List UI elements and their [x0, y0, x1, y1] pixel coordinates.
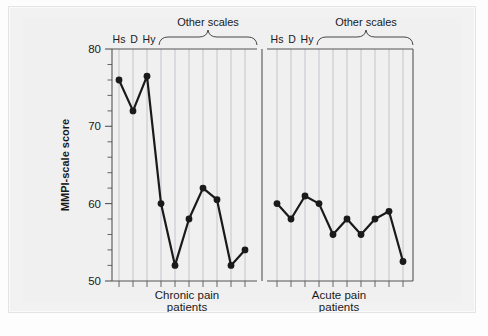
acute-pain-series: [274, 193, 407, 265]
right-panel-x-ticks: [277, 281, 403, 287]
chronic-pain-group-label-line2: patients: [167, 301, 208, 312]
left-panel-label-hs: Hs: [113, 33, 126, 45]
acute-pain-line: [277, 196, 403, 262]
acute-pain-markers: [274, 193, 407, 265]
mmpi-line-chart: 80 70 60 50 MMPI-scale score: [9, 7, 475, 312]
right-panel-gridlines: [277, 49, 403, 281]
right-panel-label-hs: Hs: [271, 33, 284, 45]
left-panel-other-scales-bracket: [159, 30, 257, 45]
right-panel-other-scales-bracket: [317, 30, 413, 45]
left-panel-label-hy: Hy: [143, 33, 157, 45]
left-panel-label-d: D: [130, 33, 138, 45]
figure-container: 80 70 60 50 MMPI-scale score: [0, 0, 488, 336]
right-panel-label-d: D: [288, 33, 296, 45]
chronic-pain-series: [116, 73, 249, 269]
left-panel-other-scales-label: Other scales: [177, 16, 239, 28]
y-tick-label-50: 50: [88, 275, 101, 287]
y-axis-minor-ticks: [108, 65, 113, 266]
figure-plate: 80 70 60 50 MMPI-scale score: [8, 6, 476, 313]
chronic-pain-line: [119, 76, 245, 265]
y-axis-major-ticks: [105, 49, 112, 281]
acute-pain-group-label-line2: patients: [319, 301, 360, 312]
y-tick-label-70: 70: [88, 120, 101, 132]
right-panel-other-scales-label: Other scales: [335, 16, 397, 28]
chronic-pain-group-label-line1: Chronic pain: [155, 289, 220, 301]
right-panel-label-hy: Hy: [301, 33, 315, 45]
left-panel-x-ticks: [119, 281, 245, 287]
y-tick-label-80: 80: [88, 43, 101, 55]
y-tick-label-60: 60: [88, 198, 101, 210]
acute-pain-group-label-line1: Acute pain: [312, 289, 366, 301]
y-axis-title: MMPI-scale score: [59, 119, 71, 211]
